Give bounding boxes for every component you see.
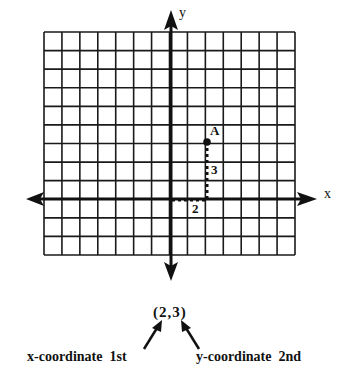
- pointer-arrows: [144, 320, 199, 349]
- vertical-distance-label: 3: [211, 163, 218, 176]
- point-a-marker: [203, 138, 211, 146]
- ordered-pair: (2,3): [153, 305, 187, 320]
- x-coordinate-caption: x-coordinate 1st: [27, 350, 127, 364]
- y-pointer-arrow-shaft: [186, 328, 199, 349]
- x-pointer-arrow-icon: [152, 320, 162, 332]
- y-coordinate-caption: y-coordinate 2nd: [196, 350, 301, 364]
- coordinate-plane-diagram: y x A 3 2 (2,3) x-coordinate 1st y-coord…: [0, 0, 346, 387]
- x-pointer-arrow-shaft: [144, 328, 157, 349]
- horizontal-distance-label: 2: [192, 202, 199, 215]
- y-pointer-arrow-icon: [181, 320, 191, 332]
- point-a-label: A: [210, 124, 219, 137]
- x-axis-label: x: [324, 187, 331, 201]
- coordinate-grid: [0, 0, 346, 387]
- y-axis-label: y: [179, 6, 186, 20]
